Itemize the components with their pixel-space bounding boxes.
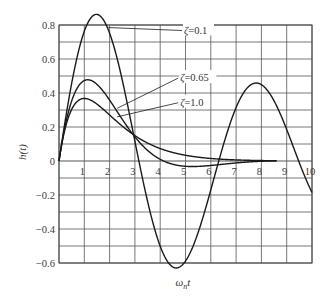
y-tick-label: 0 bbox=[50, 156, 55, 167]
annotation-label: ζ=0.65 bbox=[180, 72, 209, 84]
y-tick-label: −0.6 bbox=[36, 258, 55, 269]
y-tick-label: −0.2 bbox=[36, 190, 55, 201]
x-tick-label: 10 bbox=[305, 166, 316, 177]
y-tick-label: 0.4 bbox=[42, 88, 56, 99]
y-tick-label: 0.2 bbox=[42, 122, 55, 133]
x-tick-label: 7 bbox=[231, 166, 236, 177]
x-tick-label: 1 bbox=[80, 166, 85, 177]
annotation-label: ζ=1.0 bbox=[180, 97, 203, 109]
curve-zeta-1 bbox=[59, 98, 277, 161]
impulse-response-chart: 0.80.60.40.20−0.2−0.4−0.6 12345678910 ζ=… bbox=[0, 0, 331, 304]
grid-lines bbox=[59, 25, 312, 263]
x-tick-label: 3 bbox=[130, 166, 135, 177]
y-axis-label: h(t) bbox=[16, 144, 29, 160]
x-tick-label: 5 bbox=[181, 166, 186, 177]
annotation-label: ζ=0.1 bbox=[184, 25, 207, 37]
x-tick-label: 4 bbox=[156, 166, 162, 177]
x-axis-label: ωnt bbox=[176, 276, 192, 291]
y-axis-tick-labels: 0.80.60.40.20−0.2−0.4−0.6 bbox=[36, 20, 56, 269]
annotation-leader-line bbox=[108, 28, 182, 31]
y-tick-label: 0.8 bbox=[42, 20, 55, 31]
y-tick-label: 0.6 bbox=[42, 54, 55, 65]
x-tick-label: 8 bbox=[257, 166, 262, 177]
x-axis-tick-labels: 12345678910 bbox=[80, 166, 316, 177]
curve-annotations: ζ=0.1ζ=0.65ζ=1.0 bbox=[108, 23, 216, 117]
x-tick-label: 2 bbox=[105, 166, 110, 177]
x-tick-label: 9 bbox=[282, 166, 287, 177]
y-tick-label: −0.4 bbox=[36, 224, 56, 235]
x-tick-label: 6 bbox=[206, 166, 211, 177]
